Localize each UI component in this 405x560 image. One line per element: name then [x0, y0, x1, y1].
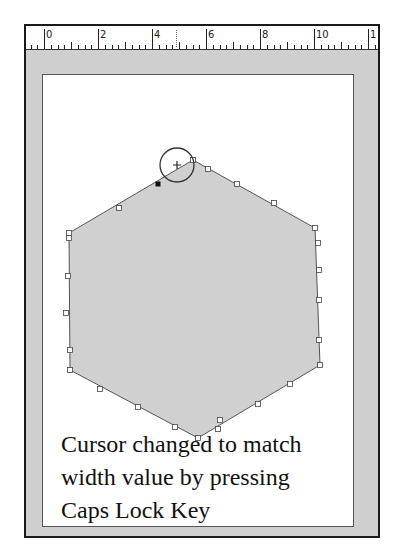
node-handle[interactable]: [272, 201, 277, 206]
node-handle[interactable]: [318, 363, 323, 368]
selected-node-handle[interactable]: [156, 182, 161, 187]
hexagon-shape[interactable]: [69, 160, 320, 438]
node-handle[interactable]: [317, 338, 322, 343]
node-handle[interactable]: [117, 206, 122, 211]
caption-text: Cursor changed to match width value by p…: [61, 428, 351, 527]
node-handle[interactable]: [206, 167, 211, 172]
node-handle[interactable]: [67, 231, 72, 236]
node-handle[interactable]: [316, 241, 321, 246]
node-handle[interactable]: [66, 274, 71, 279]
node-handle[interactable]: [68, 348, 73, 353]
node-handle[interactable]: [98, 387, 103, 392]
node-handle[interactable]: [256, 402, 261, 407]
node-handle[interactable]: [68, 368, 73, 373]
node-handle[interactable]: [313, 226, 318, 231]
caption-line: Caps Lock Key: [61, 494, 351, 527]
node-handle[interactable]: [288, 382, 293, 387]
node-handle[interactable]: [67, 236, 72, 241]
node-handle[interactable]: [136, 405, 141, 410]
node-handle[interactable]: [235, 182, 240, 187]
node-handle[interactable]: [64, 311, 69, 316]
node-handle[interactable]: [317, 298, 322, 303]
node-handle[interactable]: [218, 418, 223, 423]
caption-line: Cursor changed to match: [61, 428, 351, 461]
node-handle[interactable]: [317, 268, 322, 273]
caption-line: width value by pressing: [61, 461, 351, 494]
